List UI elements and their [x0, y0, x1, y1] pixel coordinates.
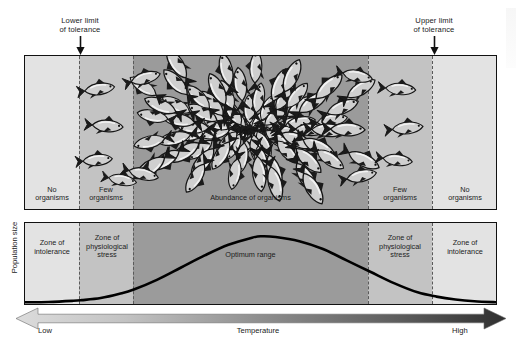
- label-abundance-of-organisms: Abundance of organisms: [133, 194, 368, 203]
- callout-upper-limit: Upper limit of tolerance: [384, 16, 484, 35]
- figure-canvas: Lower limit of tolerance Upper limit of …: [0, 0, 516, 350]
- label-zone-physio-right: Zone of physiological stress: [366, 234, 434, 260]
- callout-lower-line1: Lower limit: [30, 16, 130, 25]
- arrow-down-icon-lower: [75, 36, 86, 56]
- label-text: intolerance: [432, 248, 497, 257]
- arrow-down-icon-upper: [429, 36, 440, 56]
- label-text: organisms: [25, 194, 79, 203]
- label-no-organisms-left: No organisms: [25, 186, 79, 203]
- callout-upper-line1: Upper limit: [384, 16, 484, 25]
- x-axis-high-label: High: [452, 326, 468, 335]
- label-text: stress: [366, 251, 434, 260]
- label-few-organisms-left: Few organisms: [79, 186, 133, 203]
- label-text: Abundance of organisms: [133, 194, 368, 203]
- label-zone-physio-left: Zone of physiological stress: [79, 234, 135, 260]
- label-no-organisms-right: No organisms: [432, 186, 497, 203]
- label-text: organisms: [79, 194, 133, 203]
- label-text: intolerance: [25, 248, 79, 257]
- y-axis-label: Population size: [10, 218, 19, 278]
- x-axis-label: Temperature: [0, 326, 516, 335]
- label-text: stress: [79, 251, 135, 260]
- page-edge-artifact: [506, 8, 516, 68]
- label-optimum-range: Optimum range: [133, 251, 368, 260]
- label-text: organisms: [432, 194, 497, 203]
- label-text: Optimum range: [133, 251, 368, 260]
- population-curve-panel: Zone of intolerance Zone of physiologica…: [24, 222, 497, 305]
- label-few-organisms-right: Few organisms: [368, 186, 432, 203]
- label-text: organisms: [368, 194, 432, 203]
- callout-lower-limit: Lower limit of tolerance: [30, 16, 130, 35]
- callout-lower-line2: of tolerance: [30, 25, 130, 34]
- organism-abundance-panel: No organisms Few organisms Abundance of …: [24, 55, 497, 210]
- label-zone-intolerance-left: Zone of intolerance: [25, 239, 79, 256]
- label-zone-intolerance-right: Zone of intolerance: [432, 239, 497, 256]
- callout-upper-line2: of tolerance: [384, 25, 484, 34]
